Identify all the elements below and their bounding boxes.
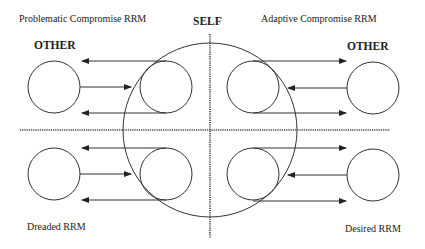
label-problematic-compromise: Problematic Compromise RRM [19,13,146,24]
other-circle [28,61,80,113]
quadrant-adaptive-compromise [227,61,399,114]
other-circle [28,148,80,200]
self-circle [227,148,279,200]
self-circle [140,61,192,113]
quadrant-problematic-compromise [28,61,192,113]
other-circle [347,62,399,114]
label-dreaded: Dreaded RRM [27,221,86,232]
label-adaptive-compromise: Adaptive Compromise RRM [261,13,377,24]
self-circle [227,61,279,113]
label-self: SELF [193,15,222,27]
other-circle [347,149,399,201]
quadrant-dreaded [28,148,192,200]
quadrant-desired [227,148,399,201]
label-desired: Desired RRM [345,223,401,234]
rrm-diagram: Problematic Compromise RRM SELF Adaptive… [0,0,425,249]
label-other-right: OTHER [347,40,389,52]
self-circle [140,148,192,200]
label-other-left: OTHER [34,39,76,51]
